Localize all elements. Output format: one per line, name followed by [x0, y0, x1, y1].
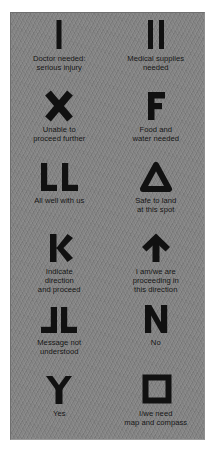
signal-cell-food-and-water: Food and water needed — [108, 84, 205, 155]
bar-symbol — [42, 17, 76, 53]
up-arrow-symbol — [139, 230, 173, 266]
double-l-symbol — [38, 159, 80, 195]
signal-caption: All well with us — [32, 196, 86, 205]
signal-cell-yes: Yes — [11, 368, 108, 439]
signal-cell-unable-to-proceed: Unable to proceed further — [11, 84, 108, 155]
signal-caption: Indicate direction and proceed — [36, 267, 83, 295]
signal-caption: Unable to proceed further — [31, 125, 87, 143]
signal-cell-need-map-compass: I/we need map and compass — [108, 368, 205, 439]
signal-cell-medical-supplies: Medical supplies needed — [108, 13, 205, 84]
signal-caption: Medical supplies needed — [125, 54, 186, 72]
signal-caption: Yes — [51, 409, 68, 418]
letter-k-symbol — [42, 230, 76, 266]
cross-x-symbol — [42, 88, 76, 124]
signal-cell-proceeding-direction: I am/we are proceeding in this direction — [108, 226, 205, 297]
signal-code-chart-panel: Doctor needed: serious injury Medical su… — [10, 12, 205, 440]
signal-cell-no: No — [108, 297, 205, 368]
mirrored-l-pair-symbol — [38, 301, 80, 337]
double-bar-symbol — [139, 17, 173, 53]
signal-caption: Food and water needed — [130, 125, 181, 143]
signal-caption: Doctor needed: serious injury — [31, 54, 88, 72]
signal-cell-safe-to-land: Safe to land at this spot — [108, 155, 205, 226]
signal-cell-doctor-needed: Doctor needed: serious injury — [11, 13, 108, 84]
signal-cell-message-not-understood: Message not understood — [11, 297, 108, 368]
signal-caption: Message not understood — [35, 338, 83, 356]
letter-f-symbol — [139, 88, 173, 124]
signal-grid: Doctor needed: serious injury Medical su… — [11, 13, 204, 439]
letter-y-symbol — [42, 372, 76, 408]
signal-caption: I/we need map and compass — [122, 409, 189, 427]
signal-cell-indicate-direction: Indicate direction and proceed — [11, 226, 108, 297]
hollow-square-symbol — [139, 372, 173, 408]
signal-caption: Safe to land at this spot — [133, 196, 178, 214]
signal-cell-all-well: All well with us — [11, 155, 108, 226]
triangle-symbol — [138, 159, 174, 195]
signal-caption: I am/we are proceeding in this direction — [131, 267, 181, 295]
letter-n-symbol — [139, 301, 173, 337]
signal-caption: No — [149, 338, 163, 347]
